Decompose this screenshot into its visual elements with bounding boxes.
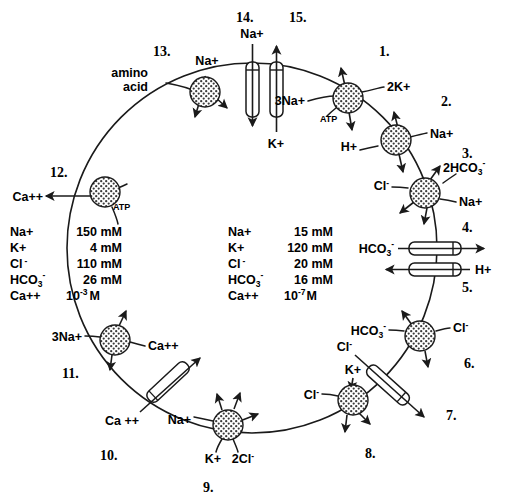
- transporter-3-body[interactable]: [410, 178, 440, 208]
- number-9: 9.: [203, 480, 214, 495]
- transporter-11-body[interactable]: [100, 325, 130, 355]
- label-12-calcium: Ca++: [12, 190, 43, 204]
- transporter-6-body[interactable]: [405, 321, 435, 351]
- transporter-14-sodium-channel[interactable]: Na+: [240, 27, 263, 126]
- number-8: 8.: [365, 446, 376, 461]
- inner-concentration-table: Na+ 15 mM K+ 120 mM Cl- 20 mM HCO3- 16 m…: [228, 225, 333, 303]
- label-3-sodium: Na+: [459, 195, 482, 209]
- transporter-1-body[interactable]: [333, 83, 363, 113]
- transporter-3-sodium-bicarbonate-chloride-exchanger[interactable]: Cl- 2HCO3- Na+: [374, 158, 486, 224]
- label-9-potassium: K+: [205, 452, 221, 466]
- label-2-sodium: Na+: [430, 127, 453, 141]
- label-3-chloride: Cl-: [374, 178, 390, 193]
- label-13-sodium: Na+: [195, 54, 218, 68]
- inner-ion-k: K+: [228, 241, 244, 255]
- label-6-chloride: Cl-: [453, 320, 469, 335]
- label-5-hydrogen: H+: [475, 263, 491, 277]
- label-7-chloride: Cl-: [337, 339, 353, 354]
- transporter-11-sodium-calcium-exchanger[interactable]: 3Na+ Ca++: [52, 311, 179, 370]
- outer-ion-na: Na+: [10, 225, 33, 239]
- outer-ion-hco3: HCO3-: [10, 270, 46, 289]
- number-11: 11.: [62, 366, 79, 381]
- number-2: 2.: [441, 94, 452, 109]
- transporter-13-body[interactable]: [190, 77, 220, 107]
- number-14: 14.: [236, 10, 254, 25]
- cell-transport-diagram: amino acid Na+ 13. Na+ 14. K+ 15. 3Na+ 2…: [0, 0, 505, 504]
- outer-value-ca: 10-3M: [66, 287, 100, 303]
- label-12-atp: ATP: [113, 202, 130, 212]
- label-11-sodium: 3Na+: [52, 330, 82, 344]
- inner-ion-na: Na+: [228, 225, 251, 239]
- transporter-5-hydrogen-channel[interactable]: H+: [386, 263, 491, 277]
- outer-value-na: 150 mM: [76, 225, 122, 239]
- transporter-12-calcium-atpase[interactable]: Ca++ ATP: [12, 177, 130, 224]
- inner-value-ca: 10-7M: [284, 287, 317, 303]
- outer-ion-k: K+: [10, 241, 26, 255]
- inner-ion-cl: Cl-: [228, 256, 246, 271]
- transporter-13-sodium-amino-acid-cotransporter[interactable]: amino acid Na+: [111, 54, 227, 117]
- label-9-chloride: 2Cl-: [232, 451, 254, 466]
- transporter-2-sodium-hydrogen-exchanger[interactable]: H+ Na+: [341, 112, 454, 172]
- number-10: 10.: [100, 448, 118, 463]
- label-6-bicarbonate: HCO3-: [351, 321, 387, 340]
- inner-value-na: 15 mM: [294, 225, 333, 239]
- number-7: 7.: [446, 408, 457, 423]
- outer-value-hco3: 26 mM: [83, 273, 122, 287]
- label-2-hydrogen: H+: [341, 140, 357, 154]
- number-1: 1.: [379, 44, 390, 59]
- label-9-sodium: Na+: [168, 413, 191, 427]
- channel-10-body[interactable]: [145, 360, 192, 405]
- label-acid: acid: [123, 80, 148, 94]
- label-1-atp: ATP: [320, 114, 337, 124]
- number-3: 3.: [462, 146, 473, 161]
- inner-ion-hco3: HCO3-: [228, 270, 264, 289]
- label-4-bicarbonate: HCO3-: [359, 239, 395, 258]
- number-15: 15.: [289, 10, 307, 25]
- label-10-calcium: Ca ++: [105, 414, 139, 428]
- transporter-2-body[interactable]: [381, 125, 411, 155]
- number-13: 13.: [153, 44, 171, 59]
- label-11-calcium: Ca++: [148, 339, 179, 353]
- transporter-9-body[interactable]: [213, 410, 243, 440]
- label-1-potassium: 2K+: [387, 80, 410, 94]
- transporter-8-body[interactable]: [338, 385, 368, 415]
- transporter-6-chloride-bicarbonate-exchanger[interactable]: HCO3- Cl-: [351, 311, 469, 367]
- outer-value-cl: 110 mM: [77, 257, 122, 271]
- transporter-4-bicarbonate-channel[interactable]: HCO3-: [359, 239, 484, 258]
- number-5: 5.: [462, 280, 473, 295]
- outer-concentration-table: Na+ 150 mM K+ 4 mM Cl- 110 mM HCO3- 26 m…: [10, 225, 122, 303]
- label-1-sodium: 3Na+: [275, 94, 305, 108]
- label-8-potassium: K+: [345, 363, 361, 377]
- inner-ion-ca: Ca++: [228, 289, 259, 303]
- inner-value-hco3: 16 mM: [294, 273, 333, 287]
- number-6: 6.: [464, 356, 475, 371]
- number-4: 4.: [462, 220, 473, 235]
- outer-ion-ca: Ca++: [10, 289, 41, 303]
- inner-value-cl: 20 mM: [294, 257, 333, 271]
- inner-value-k: 120 mM: [287, 241, 333, 255]
- outer-ion-cl: Cl-: [10, 256, 28, 271]
- transporter-1-sodium-potassium-atpase[interactable]: 3Na+ 2K+ ATP: [275, 68, 411, 130]
- diagram-canvas: amino acid Na+ 13. Na+ 14. K+ 15. 3Na+ 2…: [0, 0, 505, 504]
- label-15-potassium: K+: [268, 137, 284, 151]
- label-amino: amino: [111, 66, 148, 80]
- number-12: 12.: [50, 165, 68, 180]
- label-8-chloride: Cl-: [304, 387, 320, 402]
- label-14-sodium: Na+: [240, 27, 263, 41]
- outer-value-k: 4 mM: [90, 241, 122, 255]
